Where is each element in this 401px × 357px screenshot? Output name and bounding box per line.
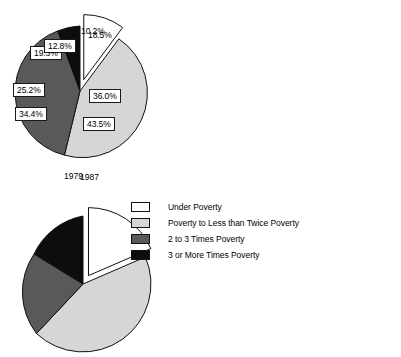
legend-item-2to3-poverty: 2 to 3 Times Poverty: [131, 231, 341, 247]
slice-label-1987-under-poverty: 18.5%: [88, 30, 112, 40]
legend-item-3ormore-poverty: 3 or More Times Poverty: [131, 247, 341, 263]
legend-label-twice-poverty: Poverty to Less than Twice Poverty: [168, 218, 299, 228]
legend-item-under-poverty: Under Poverty: [131, 199, 341, 215]
legend-swatch-2to3-poverty: [131, 234, 150, 244]
year-label-1987: 1987: [80, 172, 99, 182]
chart-legend: Under Poverty Poverty to Less than Twice…: [131, 199, 341, 263]
legend-swatch-twice-poverty: [131, 218, 150, 228]
slice-label-1987-twice-poverty: 43.5%: [83, 117, 115, 131]
legend-label-3ormore-poverty: 3 or More Times Poverty: [168, 250, 259, 260]
slice-label-1979-2to3-poverty: 34.4%: [15, 107, 47, 121]
slice-label-1979-twice-poverty: 36.0%: [89, 89, 121, 103]
legend-label-under-poverty: Under Poverty: [168, 202, 222, 212]
legend-swatch-3ormore-poverty: [131, 250, 150, 260]
slice-label-1987-3ormore-poverty: 12.8%: [44, 39, 76, 53]
legend-item-twice-poverty: Poverty to Less than Twice Poverty: [131, 215, 341, 231]
slice-label-1987-2to3-poverty: 25.2%: [13, 83, 45, 97]
legend-label-2to3-poverty: 2 to 3 Times Poverty: [168, 234, 244, 244]
legend-swatch-under-poverty: [131, 202, 150, 212]
